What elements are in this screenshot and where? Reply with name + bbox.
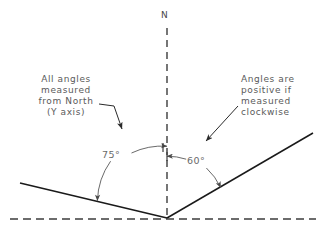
right-annotation-line-3: measured [241,96,325,107]
north-axis-label: N [161,10,168,20]
left-angle-label: 75° [102,149,120,160]
left-annotation-line-4: (Y axis) [18,107,114,118]
right-annotation-line-4: clockwise [241,107,325,118]
left-annotation-line-2: measured [18,85,114,96]
left-annotation-note: All angles measured from North (Y axis) [18,74,114,118]
diagram-vector-layer [0,0,327,236]
left-annotation-line-1: All angles [18,74,114,85]
right-bearing-ray [167,133,313,218]
diagram-canvas: N 75° 60° All angles measured from North… [0,0,327,236]
left-annotation-line-3: from North [18,96,114,107]
right-note-leader [206,106,238,141]
right-annotation-line-1: Angles are [241,74,325,85]
right-angle-label: 60° [187,155,205,166]
left-angle-arc-upper [132,146,168,153]
right-annotation-note: Angles are positive if measured clockwis… [241,74,325,118]
left-bearing-ray [20,183,167,218]
right-annotation-line-2: positive if [241,85,325,96]
right-angle-arc-upper [167,156,186,159]
left-note-leader [114,106,122,129]
left-angle-arc-lower [97,161,110,200]
right-angle-arc-lower [206,168,220,188]
